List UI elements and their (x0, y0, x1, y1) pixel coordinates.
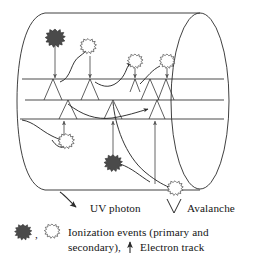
ionization-event-secondary (58, 134, 74, 149)
avalanche-marker (149, 100, 165, 119)
uv-photon-path (140, 66, 160, 84)
ionization-event-secondary (167, 181, 183, 196)
uv-photon-legend-label: UV photon (90, 202, 141, 214)
avalanche-legend-marker (167, 199, 181, 213)
ionization-secondary-legend-icon (44, 224, 60, 238)
diagram-svg: UV photon Avalanche , Ionization events … (0, 0, 261, 263)
ionization-event-primary (104, 155, 122, 172)
ionization-event-secondary (80, 39, 96, 54)
legend: UV photon Avalanche , Ionization events … (15, 192, 235, 254)
avalanche-markers (44, 79, 174, 119)
avalanche-marker (59, 100, 77, 119)
ionization-primary-legend-icon (15, 224, 32, 240)
avalanche-marker (130, 79, 140, 92)
ionization-legend-label-line1: Ionization events (primary and (68, 226, 209, 239)
ionization-legend-label-line2: secondary), (68, 241, 121, 254)
ionization-event-secondary (159, 54, 175, 68)
avalanche-marker (44, 79, 62, 100)
avalanche-marker (81, 79, 99, 100)
legend-comma: , (35, 228, 38, 240)
ionization-event-primary (45, 29, 65, 47)
avalanche-marker (141, 79, 159, 100)
uv-photon-legend-arrow (60, 192, 76, 207)
figure-container: UV photon Avalanche , Ionization events … (0, 0, 261, 263)
cylinder-left-arc (17, 13, 45, 190)
ionization-event-secondary (127, 54, 143, 68)
uv-photon-path (95, 63, 131, 86)
uv-photon-path (22, 120, 64, 141)
uv-photon-path (113, 102, 171, 188)
cylinder-right-ellipse (171, 13, 229, 189)
uv-photon-path (60, 50, 88, 82)
electron-track-legend-label: Electron track (140, 241, 205, 253)
avalanche-legend-label: Avalanche (187, 202, 235, 214)
